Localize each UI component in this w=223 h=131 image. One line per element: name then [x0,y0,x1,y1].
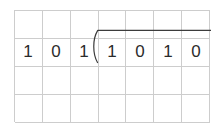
grid-cell-r1-c4[interactable] [99,11,127,39]
grid-row [15,67,210,95]
grid-cell-r3-c3[interactable] [71,67,99,95]
grid-row [15,11,210,39]
grid-cell-r1-c1[interactable] [15,11,43,39]
grid-cell-r3-c4[interactable] [99,67,127,95]
grid-cell-r3-c7[interactable] [182,67,210,95]
grid-cell-r3-c2[interactable] [43,67,71,95]
grid-cell-r1-c2[interactable] [43,11,71,39]
grid-cell-r1-c7[interactable] [182,11,210,39]
digit-cell-6: 1 [154,38,182,66]
digit-layer: 1011010 [14,38,210,66]
grid-cell-r4-c4[interactable] [99,95,127,123]
grid-cell-r4-c5[interactable] [126,95,154,123]
grid-cell-r1-c5[interactable] [126,11,154,39]
grid-cell-r1-c6[interactable] [154,11,182,39]
digit-cell-2: 0 [42,38,70,66]
digit-cell-4: 1 [98,38,126,66]
grid-cell-r4-c7[interactable] [182,95,210,123]
grid-row [15,95,210,123]
grid-cell-r4-c6[interactable] [154,95,182,123]
grid-cell-r1-c3[interactable] [71,11,99,39]
digit-cell-1: 1 [14,38,42,66]
digit-cell-5: 0 [126,38,154,66]
grid-cell-r3-c6[interactable] [154,67,182,95]
digit-cell-3: 1 [70,38,98,66]
grid-cell-r3-c1[interactable] [15,67,43,95]
grid-cell-r3-c5[interactable] [126,67,154,95]
division-worksheet: 1011010 [0,0,223,131]
grid-cell-r4-c3[interactable] [71,95,99,123]
worksheet-grid [14,10,210,122]
digit-cell-7: 0 [182,38,210,66]
grid-cell-r4-c1[interactable] [15,95,43,123]
grid-cell-r4-c2[interactable] [43,95,71,123]
